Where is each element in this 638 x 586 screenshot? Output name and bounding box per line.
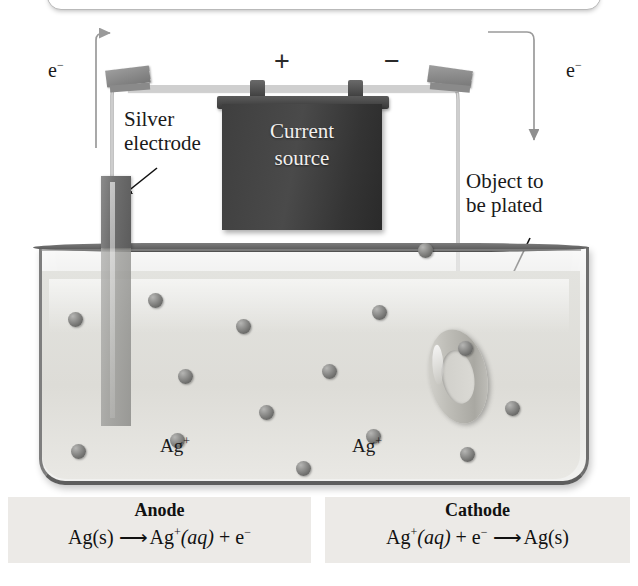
anode-equation: Ag(s) ⟶ Ag+(aq) + e− [8, 525, 311, 549]
electron-label-right: e− [566, 58, 582, 82]
silver-ion [418, 243, 433, 258]
ag-ion-label-left: Ag+ [160, 434, 190, 457]
silver-electrode-submerged [101, 248, 131, 426]
figure-canvas: e− e− + − Current source Silver electrod… [0, 0, 638, 586]
current-source-label: Current source [222, 118, 382, 172]
silver-ion [458, 341, 473, 356]
positive-terminal-sign: + [274, 46, 290, 77]
silver-ion [259, 405, 274, 420]
silver-electrode-label: Silver electrode [124, 108, 201, 155]
cathode-equation-box: Cathode Ag+(aq) + e− ⟶ Ag(s) [325, 497, 630, 563]
silver-ion [68, 312, 83, 327]
anode-equation-box: Anode Ag(s) ⟶ Ag+(aq) + e− [8, 497, 311, 563]
silver-ion [296, 461, 311, 476]
ag-ion-label-right: Ag+ [352, 434, 382, 457]
silver-ion [71, 444, 86, 459]
silver-ion [505, 401, 520, 416]
silver-electrode-highlight [110, 182, 115, 418]
cathode-title: Cathode [325, 500, 630, 521]
negative-terminal-sign: − [384, 46, 400, 77]
silver-ion [148, 293, 163, 308]
electron-label-left: e− [48, 58, 64, 82]
cathode-equation: Ag+(aq) + e− ⟶ Ag(s) [325, 525, 630, 549]
silver-ion [372, 305, 387, 320]
silver-ion [178, 369, 193, 384]
object-to-be-plated-label: Object to be plated [466, 170, 544, 217]
silver-ion [236, 319, 251, 334]
silver-electrode-bar [101, 176, 131, 248]
top-lead-wire [128, 85, 458, 92]
silver-ion [460, 447, 475, 462]
anode-title: Anode [8, 500, 311, 521]
silver-ion [322, 364, 337, 379]
top-rounded-panel [47, 0, 601, 10]
